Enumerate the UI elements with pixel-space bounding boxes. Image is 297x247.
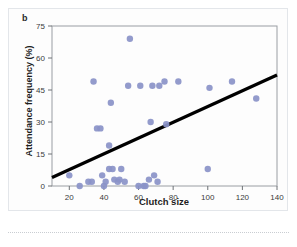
data-point xyxy=(163,121,169,127)
y-tick-label: 30 xyxy=(36,118,45,127)
data-point xyxy=(108,100,114,106)
data-point xyxy=(205,166,211,172)
x-tick-label: 120 xyxy=(236,193,250,202)
x-tick-label: 140 xyxy=(270,193,284,202)
data-point xyxy=(229,78,235,84)
data-point xyxy=(76,183,82,189)
data-point xyxy=(142,183,148,189)
data-point xyxy=(121,179,127,185)
scatter-plot: 0153045607520406080100120140 xyxy=(0,0,297,247)
data-point xyxy=(127,36,133,42)
bottom-divider xyxy=(8,232,289,233)
y-tick-label: 60 xyxy=(36,54,45,63)
data-point xyxy=(90,78,96,84)
data-point xyxy=(137,83,143,89)
data-point xyxy=(154,179,160,185)
x-tick-label: 60 xyxy=(134,193,143,202)
data-point xyxy=(97,125,103,131)
y-tick-label: 15 xyxy=(36,150,45,159)
data-point xyxy=(66,172,72,178)
data-point xyxy=(99,172,105,178)
data-point xyxy=(156,83,162,89)
data-point xyxy=(149,83,155,89)
x-tick-label: 100 xyxy=(201,193,215,202)
data-point xyxy=(118,166,124,172)
x-tick-label: 20 xyxy=(65,193,74,202)
y-tick-label: 45 xyxy=(36,86,45,95)
x-tick-label: 40 xyxy=(99,193,108,202)
data-point xyxy=(102,179,108,185)
figure-root: b Attendance frequency (%) Clutch size 0… xyxy=(0,0,297,247)
data-point xyxy=(147,119,153,125)
data-point xyxy=(151,172,157,178)
data-point xyxy=(206,85,212,91)
data-point xyxy=(89,179,95,185)
data-point xyxy=(106,142,112,148)
data-point xyxy=(146,176,152,182)
y-tick-label: 0 xyxy=(41,182,46,191)
data-point xyxy=(253,95,259,101)
data-point xyxy=(109,166,115,172)
x-tick-label: 80 xyxy=(169,193,178,202)
y-tick-label: 75 xyxy=(36,22,45,31)
data-point xyxy=(161,78,167,84)
data-point xyxy=(175,78,181,84)
data-point xyxy=(125,83,131,89)
